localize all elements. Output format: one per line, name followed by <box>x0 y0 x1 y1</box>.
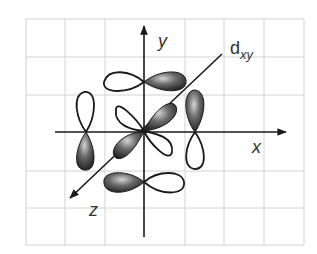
orbital-label: dxy <box>230 38 255 62</box>
dxy-orbital-diagram: y x z dxy <box>0 0 317 254</box>
x-axis-label: x <box>251 137 262 157</box>
z-axis-label: z <box>88 200 98 220</box>
orbital-label-subscript: xy <box>239 47 255 62</box>
orbital-label-main: d <box>230 38 240 58</box>
y-axis-label: y <box>156 31 168 51</box>
